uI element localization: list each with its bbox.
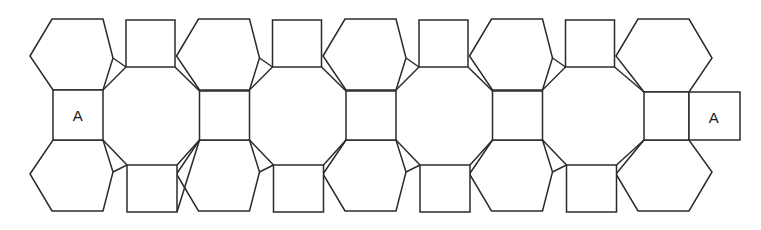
connector-edge-19: [260, 58, 273, 67]
square-top-2: [419, 20, 468, 67]
square-top-1: [273, 20, 322, 67]
glue-label-a-right: A: [709, 109, 720, 126]
square-bottom-1: [274, 165, 324, 212]
square-top-3: [566, 20, 615, 67]
square-middle-3: [493, 91, 543, 140]
connector-edge-20: [260, 165, 274, 172]
hexagon-top-3: [470, 19, 553, 90]
hexagon-top-0: [30, 19, 113, 90]
square-middle-4: [644, 92, 689, 140]
hexagon-bottom-4: [616, 140, 712, 211]
connector-edge-21: [406, 58, 419, 67]
square-bottom-3: [567, 165, 617, 212]
hexagon-top-1: [177, 19, 260, 90]
square-middle-1: [200, 91, 250, 140]
hexagon-bottom-0: [30, 140, 113, 211]
square-bottom-0: [127, 165, 177, 212]
polyhedron-net-figure: AA: [0, 0, 761, 230]
net-diagram-canvas: AA: [0, 0, 761, 230]
middle-squares-group: [53, 90, 740, 140]
square-bottom-2: [420, 165, 470, 212]
connector-edge-17: [113, 58, 126, 67]
square-top-0: [126, 20, 175, 67]
connector-edge-18: [113, 165, 127, 172]
connector-edge-23: [553, 58, 566, 67]
glue-label-a-left: A: [73, 107, 84, 124]
connector-edge-22: [406, 165, 420, 172]
hexagon-top-2: [323, 19, 406, 90]
connector-edge-24: [553, 165, 567, 172]
square-middle-2: [346, 91, 396, 140]
